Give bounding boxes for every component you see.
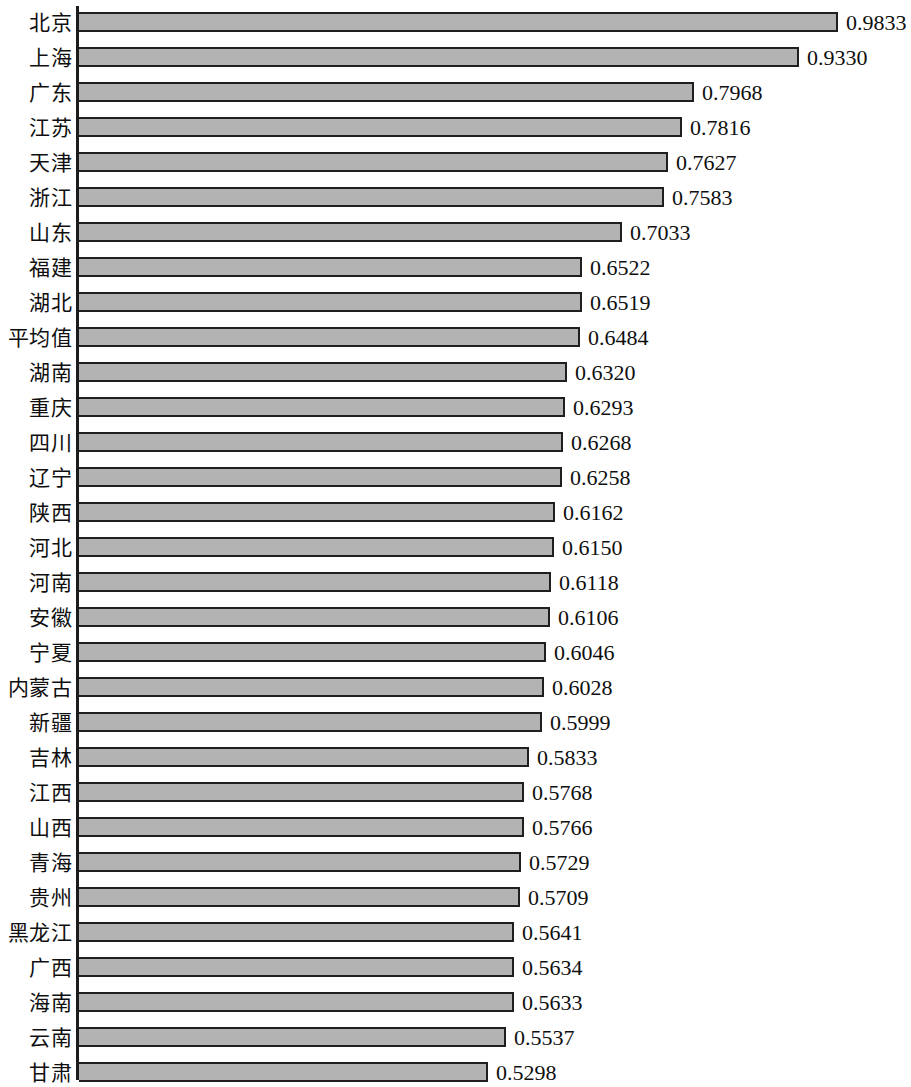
bar-value-label: 0.6522 [590,251,651,286]
bar [79,47,799,67]
chart-row: 河南0.6118 [0,566,911,601]
bar-value-label: 0.6293 [573,391,634,426]
chart-row: 安徽0.6106 [0,601,911,636]
category-label: 宁夏 [29,636,72,671]
category-label: 四川 [29,426,72,461]
bar [79,117,682,137]
category-label: 山东 [29,216,72,251]
chart-row: 湖南0.6320 [0,356,911,391]
category-label: 广西 [29,951,72,986]
bar [79,852,521,872]
bar [79,1062,488,1082]
category-label: 辽宁 [29,461,72,496]
bar-value-label: 0.7583 [672,181,733,216]
bar [79,747,529,767]
bar [79,152,668,172]
bar-value-label: 0.6106 [558,601,619,636]
category-label: 贵州 [29,881,72,916]
bar [79,432,563,452]
bar-value-label: 0.6118 [559,566,619,601]
bar [79,922,514,942]
chart-row: 广西0.5634 [0,951,911,986]
bar-value-label: 0.6046 [554,636,615,671]
bar [79,362,567,382]
category-label: 平均值 [8,321,73,356]
bar-value-label: 0.9833 [846,6,907,41]
category-label: 安徽 [29,601,72,636]
chart-row: 陕西0.6162 [0,496,911,531]
bar [79,957,514,977]
bar-value-label: 0.5833 [537,741,598,776]
chart-row: 贵州0.5709 [0,881,911,916]
chart-row: 重庆0.6293 [0,391,911,426]
bar [79,82,694,102]
bar-value-label: 0.5537 [514,1021,575,1056]
bar [79,607,550,627]
chart-row: 江西0.5768 [0,776,911,811]
category-label: 湖北 [29,286,72,321]
bar [79,572,551,592]
category-label: 上海 [29,41,72,76]
bar-value-label: 0.7968 [702,76,763,111]
category-label: 陕西 [29,496,72,531]
chart-row: 新疆0.5999 [0,706,911,741]
bar [79,1027,506,1047]
bar-value-label: 0.7816 [690,111,751,146]
category-label: 海南 [29,986,72,1021]
bar-value-label: 0.5999 [550,706,611,741]
category-label: 江苏 [29,111,72,146]
bar [79,712,542,732]
bar-value-label: 0.6320 [575,356,636,391]
bar [79,327,580,347]
chart-row: 山东0.7033 [0,216,911,251]
bar [79,257,582,277]
bar [79,817,524,837]
bar [79,502,555,522]
bar-value-label: 0.7033 [630,216,691,251]
bar [79,677,544,697]
chart-row: 宁夏0.6046 [0,636,911,671]
category-label: 重庆 [29,391,72,426]
chart-row: 江苏0.7816 [0,111,911,146]
bar [79,292,582,312]
chart-row: 福建0.6522 [0,251,911,286]
bar-value-label: 0.5633 [522,986,583,1021]
chart-row: 湖北0.6519 [0,286,911,321]
bar [79,782,524,802]
category-label: 河南 [29,566,72,601]
bar-value-label: 0.9330 [807,41,868,76]
bar-value-label: 0.6162 [563,496,624,531]
chart-row: 广东0.7968 [0,76,911,111]
chart-row: 四川0.6268 [0,426,911,461]
bar-value-label: 0.6028 [552,671,613,706]
category-label: 湖南 [29,356,72,391]
bar-value-label: 0.5729 [529,846,590,881]
bar [79,222,622,242]
chart-row: 海南0.5633 [0,986,911,1021]
chart-row: 辽宁0.6258 [0,461,911,496]
bar-value-label: 0.5634 [522,951,583,986]
category-label: 河北 [29,531,72,566]
bar-value-label: 0.6519 [590,286,651,321]
bar-value-label: 0.6484 [588,321,649,356]
category-label: 黑龙江 [8,916,73,951]
chart-row: 甘肃0.5298 [0,1056,911,1087]
chart-row: 黑龙江0.5641 [0,916,911,951]
category-label: 山西 [29,811,72,846]
bar [79,642,546,662]
bar-value-label: 0.6258 [570,461,631,496]
chart-row: 吉林0.5833 [0,741,911,776]
bar [79,887,520,907]
category-label: 吉林 [29,741,72,776]
bar-value-label: 0.5641 [522,916,583,951]
chart-row: 平均值0.6484 [0,321,911,356]
category-label: 云南 [29,1021,72,1056]
chart-row: 北京0.9833 [0,6,911,41]
chart-row: 浙江0.7583 [0,181,911,216]
bar [79,397,565,417]
category-label: 青海 [29,846,72,881]
bar-value-label: 0.6268 [571,426,632,461]
chart-row: 河北0.6150 [0,531,911,566]
